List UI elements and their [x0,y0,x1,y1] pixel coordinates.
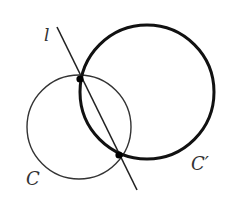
geometry-diagram: l C C′ [0,0,234,202]
label-c-prime: C′ [191,153,209,174]
intersection-point-lower [115,151,122,158]
line-l [57,27,137,190]
intersection-point-upper [76,75,83,82]
circle-c-prime [80,25,214,159]
label-c: C [26,168,40,189]
label-l: l [44,25,49,45]
